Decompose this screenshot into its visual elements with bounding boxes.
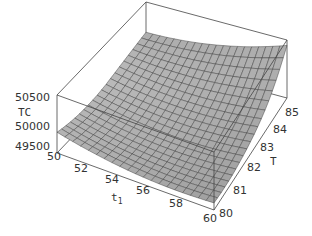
x-tick-56: 56: [136, 185, 150, 196]
z-tick-50000: 50000: [15, 121, 50, 132]
surface-mesh: [57, 32, 287, 203]
surface-plot: [0, 0, 312, 236]
x-tick-50: 50: [47, 151, 61, 162]
z-axis-label: TC: [18, 107, 31, 118]
y-tick-84: 84: [273, 124, 287, 135]
z-tick-49500: 49500: [15, 141, 50, 152]
x-tick-52: 52: [74, 163, 88, 174]
z-tick-50500: 50500: [15, 92, 50, 103]
x-axis-label: t1: [111, 192, 122, 206]
y-tick-85: 85: [285, 107, 299, 118]
x-tick-54: 54: [105, 174, 119, 185]
y-tick-83: 83: [260, 142, 274, 153]
x-axis-label-main: t: [111, 191, 118, 204]
y-axis-label: T: [270, 156, 277, 167]
y-tick-81: 81: [233, 185, 247, 196]
x-tick-58: 58: [169, 198, 183, 209]
x-axis-label-sub: 1: [118, 197, 123, 206]
x-tick-60: 60: [203, 213, 217, 224]
y-tick-82: 82: [247, 162, 261, 173]
y-tick-80: 80: [219, 208, 233, 219]
